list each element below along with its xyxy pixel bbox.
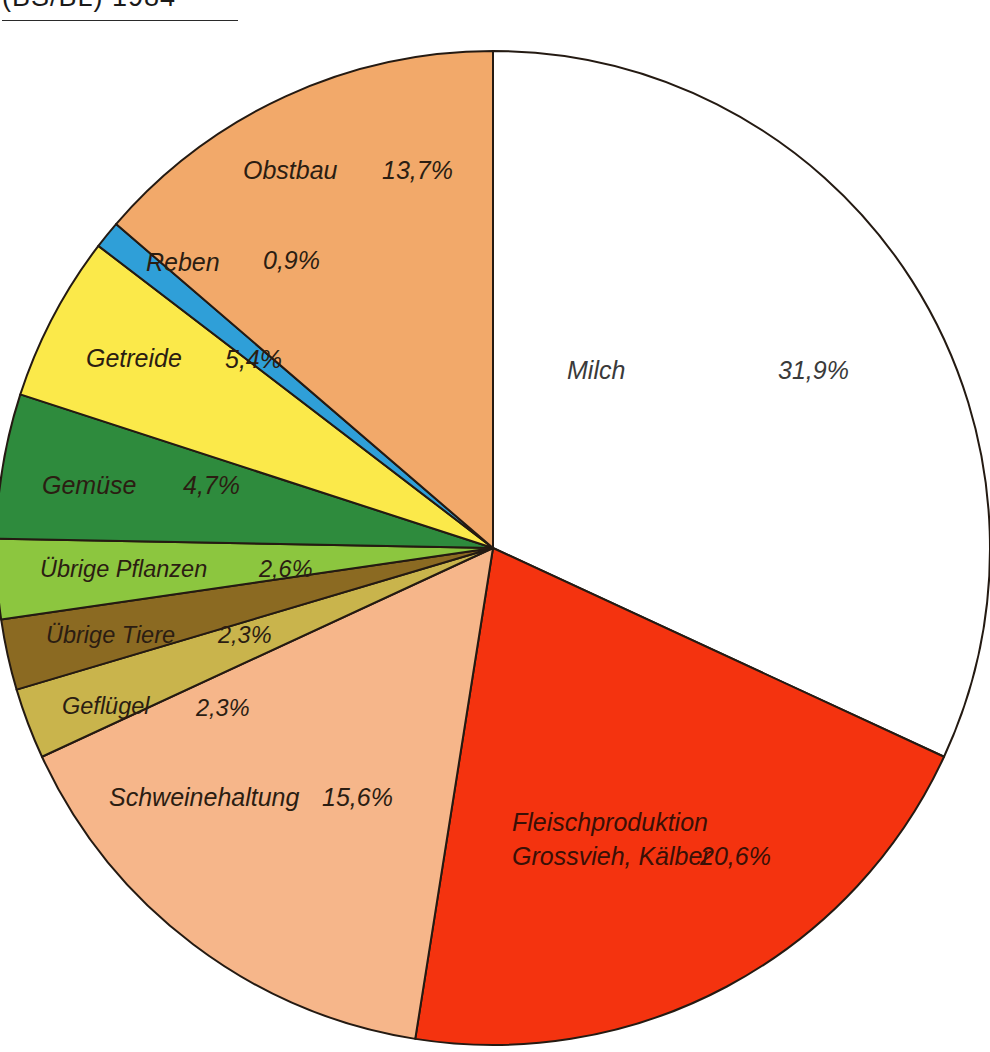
slice-label: Geflügel: [62, 693, 150, 719]
slice-label: Schweinehaltung: [109, 783, 300, 811]
slice-value: 15,6%: [322, 783, 393, 811]
pie-chart: Milch31,9%FleischproduktionGrossvieh, Kä…: [0, 0, 990, 1052]
slice-value: 20,6%: [699, 842, 771, 870]
slice-value: 2,6%: [258, 556, 313, 582]
slice-value: 31,9%: [778, 356, 849, 384]
slice-value: 2,3%: [217, 622, 272, 648]
slice-value: 13,7%: [382, 156, 453, 184]
slice-label: Milch: [567, 356, 625, 384]
slice-label: Fleischproduktion: [512, 808, 708, 836]
slice-label: Übrige Tiere: [46, 622, 175, 648]
slice-label: Reben: [146, 248, 220, 276]
slice-value: 2,3%: [195, 695, 250, 721]
pie-slices-group: [0, 51, 990, 1045]
slice-label: Obstbau: [243, 156, 338, 184]
slice-label: Gemüse: [42, 471, 136, 499]
pie-chart-page: (BS/BL) 1984 Milch31,9%Fleischproduktion…: [0, 0, 990, 1052]
slice-label: Getreide: [86, 344, 182, 372]
slice-value: 5,4%: [225, 345, 282, 373]
slice-label-line2: Grossvieh, Kälber: [512, 842, 712, 870]
slice-label: Übrige Pflanzen: [40, 556, 207, 582]
pie-chart-svg: Milch31,9%FleischproduktionGrossvieh, Kä…: [0, 0, 990, 1052]
slice-value: 0,9%: [263, 246, 320, 274]
slice-value: 4,7%: [183, 471, 240, 499]
